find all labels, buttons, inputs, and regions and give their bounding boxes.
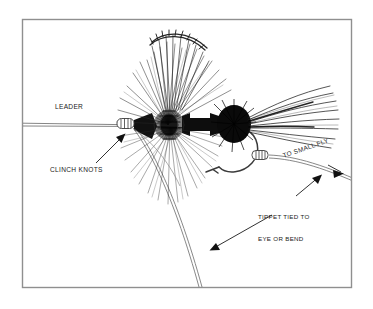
fly-rig-illustration	[0, 0, 373, 309]
clinch-knot-eye	[117, 119, 134, 129]
clinch-knot-bend	[252, 151, 268, 160]
label-leader: LEADER	[55, 103, 83, 111]
label-clinch-knots: CLINCH KNOTS	[50, 166, 103, 174]
diagram-stage: LEADER CLINCH KNOTS TO SMALL FLY TIPPET …	[0, 0, 373, 309]
label-tippet-line2: EYE OR BEND	[258, 235, 310, 242]
label-tippet-tied-to: TIPPET TIED TO EYE OR BEND	[258, 199, 310, 256]
label-tippet-line1: TIPPET TIED TO	[258, 213, 310, 220]
